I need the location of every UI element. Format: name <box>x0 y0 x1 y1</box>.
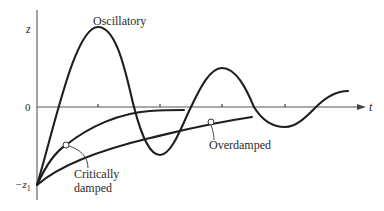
overdamped-marker-icon <box>208 119 214 125</box>
y-zero-label: 0 <box>25 101 31 113</box>
oscillatory-curve <box>37 27 348 185</box>
oscillatory-label: Oscillatory <box>93 14 146 28</box>
critically-damped-label-line1: Critically <box>74 167 119 181</box>
x-axis-arrow-icon <box>357 104 366 110</box>
overdamped-label: Overdamped <box>209 138 271 152</box>
x-axis-label: t <box>369 100 373 114</box>
critically-damped-label-line2: damped <box>74 181 112 195</box>
y-start-label: −z1 <box>15 178 31 193</box>
response-diagram: z 0 t −z1 Oscillatory Critically damped … <box>0 0 384 211</box>
y-axis-label: z <box>25 22 31 36</box>
critically-damped-marker-icon <box>63 142 69 148</box>
